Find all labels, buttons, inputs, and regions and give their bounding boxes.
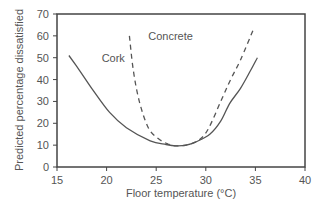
series-line-concrete (129, 29, 253, 146)
y-tick-label: 40 (37, 74, 49, 86)
x-tick-label: 30 (200, 174, 212, 186)
y-tick-label: 0 (43, 161, 49, 173)
series-line-cork (69, 56, 258, 146)
y-tick-label: 20 (37, 117, 49, 129)
x-tick-label: 40 (299, 174, 311, 186)
y-tick-label: 50 (37, 52, 49, 64)
y-tick-label: 60 (37, 30, 49, 42)
series-label-concrete: Concrete (148, 30, 193, 42)
x-tick-label: 35 (249, 174, 261, 186)
y-tick-label: 70 (37, 8, 49, 20)
x-axis-ticks: 152025303540 (51, 167, 311, 186)
y-axis-title: Predicted percentage dissatisfied (13, 9, 25, 171)
x-tick-label: 25 (150, 174, 162, 186)
x-tick-label: 20 (100, 174, 112, 186)
series-label-cork: Cork (102, 52, 126, 64)
chart: 010203040506070 152025303540 Cork Concre… (0, 0, 327, 210)
y-axis-ticks: 010203040506070 (37, 8, 57, 173)
x-tick-label: 15 (51, 174, 63, 186)
x-axis-title: Floor temperature (°C) (126, 187, 236, 199)
y-tick-label: 10 (37, 139, 49, 151)
y-tick-label: 30 (37, 95, 49, 107)
